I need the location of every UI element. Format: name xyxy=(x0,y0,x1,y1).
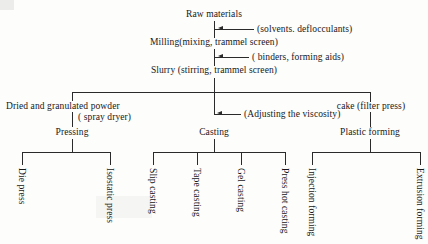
node-dried-powder: Dried and granulated powder xyxy=(6,102,120,112)
connector-main-split-bus xyxy=(72,92,371,93)
connector-slurry-down xyxy=(214,78,215,93)
leaf-extrusion-forming: Extrusion forming xyxy=(415,168,425,240)
arrow-left-icon-viscosity xyxy=(217,111,222,115)
connector-pressing-bus xyxy=(22,152,110,153)
connector-slip-casting-drop xyxy=(153,152,154,165)
leaf-tape-casting: Tape casting xyxy=(192,168,202,217)
leaf-injection-forming: Injection forming xyxy=(307,168,317,236)
connector-pressing-down xyxy=(72,139,73,152)
flowchart-canvas: Raw materials (solvents. deflocculants) … xyxy=(0,0,428,244)
connector-tape-casting-drop xyxy=(197,152,198,165)
connector-gel-casting-drop xyxy=(241,152,242,165)
connector-isostatic-press-drop xyxy=(110,152,111,165)
connector-press-hot-casting-drop xyxy=(285,152,286,165)
arrow-left-icon-additive-1 xyxy=(218,26,223,30)
connector-cake-to-plastic xyxy=(370,112,371,127)
connector-injection-forming-drop xyxy=(312,152,313,165)
node-pressing: Pressing xyxy=(56,128,89,138)
connector-die-press-drop xyxy=(22,152,23,165)
node-additive-2: ( binders, forming aids) xyxy=(252,53,344,63)
connector-casting-bus xyxy=(153,152,285,153)
node-cake: cake (filter press) xyxy=(337,102,405,112)
node-milling: Milling(mixing, trammel screen) xyxy=(150,38,278,48)
connector-plastic-bus xyxy=(312,152,420,153)
node-casting: Casting xyxy=(199,128,229,138)
node-slurry: Slurry (stirring, trammel screen) xyxy=(151,66,277,76)
connector-powder-to-pressing xyxy=(72,112,73,127)
node-spray-dryer: ( spray dryer) xyxy=(78,113,131,123)
node-additive-1: (solvents. deflocculants) xyxy=(257,25,352,35)
connector-extrusion-forming-drop xyxy=(420,152,421,165)
connector-plastic-down xyxy=(370,139,371,152)
connector-branch-left-drop xyxy=(72,92,73,101)
leaf-isostatic-press: Isostatic press xyxy=(105,168,115,223)
scan-artifact-top-left xyxy=(0,0,14,10)
connector-branch-center-drop xyxy=(214,92,215,114)
node-raw-materials: Raw materials xyxy=(186,10,242,20)
arrow-left-icon-additive-2 xyxy=(218,54,223,58)
leaf-press-hot-casting: Press hot casting xyxy=(280,168,290,234)
node-plastic-forming: Plastic forming xyxy=(340,128,400,138)
leaf-gel-casting: Gel casting xyxy=(236,168,246,212)
node-viscosity: (Adjusting the viscosity) xyxy=(244,110,340,120)
leaf-slip-casting: Slip casting xyxy=(148,168,158,214)
leaf-die-press: Die press xyxy=(17,168,27,205)
connector-casting-down xyxy=(214,139,215,152)
